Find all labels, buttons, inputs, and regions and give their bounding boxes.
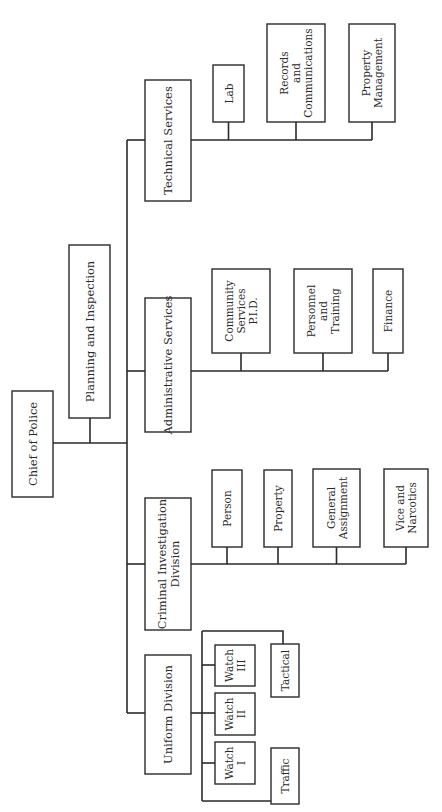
criminal-unit-box-label-line: Person	[221, 490, 233, 527]
uniform-unit-box: WatchII	[215, 693, 255, 735]
uniform-unit-box: WatchIII	[215, 645, 255, 686]
chief-of-police-box-label-line: Chief of Police	[26, 402, 40, 486]
uniform-unit-box-label-line: Watch	[223, 649, 235, 682]
uniform-unit-box-label-line: III	[235, 659, 247, 671]
uniform-division-box: Uniform Division	[145, 655, 191, 774]
technical-division-box-label-line: Technical Services	[161, 86, 175, 195]
administrative-unit-box-label-line: and	[317, 301, 329, 321]
administrative-unit-box-label-line: Training	[329, 288, 341, 334]
uniform-unit-box-label-line: Watch	[223, 746, 235, 779]
criminal-unit-box: Property	[264, 470, 292, 547]
planning-inspection-box: Planning and Inspection	[69, 245, 110, 418]
technical-unit-box-label-line: Property	[360, 50, 372, 97]
uniform-unit-box-label: Tactical	[279, 649, 291, 691]
criminal-unit-box-label-line: General	[325, 486, 337, 529]
uniform-unit-box: Tactical	[271, 644, 299, 697]
administrative-unit-box: CommunityServicesP.I.D.	[212, 269, 270, 353]
criminal-unit-box-label: Vice andNarcotics	[394, 482, 418, 534]
tactical-connector-line	[202, 631, 283, 644]
technical-unit-box: Lab	[213, 65, 244, 122]
uniform-unit-box-label-line: Traffic	[279, 758, 291, 793]
uniform-unit-box: Traffic	[271, 748, 299, 804]
uniform-division-box-label: Uniform Division	[161, 664, 175, 764]
chief-of-police-box-label: Chief of Police	[26, 402, 40, 486]
technical-unit-box-label-line: Communications	[302, 28, 314, 117]
administrative-unit-box-label-line: Community	[223, 280, 235, 341]
uniform-unit-box-label: Traffic	[279, 758, 291, 793]
uniform-division-box-label-line: Uniform Division	[161, 664, 175, 764]
planning-inspection-box-label-line: Planning and Inspection	[83, 260, 97, 402]
criminal-unit-box-label: Person	[221, 490, 233, 527]
administrative-division-box-label-line: Administrative Services	[161, 295, 175, 435]
planning-inspection-box-label: Planning and Inspection	[83, 260, 97, 402]
uniform-unit-box-label-line: Tactical	[279, 649, 291, 691]
technical-unit-box-label-line: Records	[278, 51, 290, 94]
uniform-unit-box-label-line: Watch	[223, 697, 235, 730]
criminal-unit-box: Vice andNarcotics	[384, 469, 428, 547]
criminal-unit-box: Person	[212, 470, 242, 547]
technical-unit-box-label-line: Management	[372, 37, 384, 108]
criminal-division-box-label-line: Division	[168, 540, 182, 588]
technical-unit-box-label: Lab	[223, 83, 235, 103]
chief-of-police-box: Chief of Police	[12, 391, 53, 497]
technical-unit-box: PropertyManagement	[349, 24, 395, 122]
technical-unit-box-label-line: and	[290, 63, 302, 83]
criminal-division-box: Criminal InvestigationDivision	[145, 498, 191, 630]
uniform-unit-box-label-line: II	[235, 710, 247, 718]
criminal-unit-box-label-line: Property	[272, 485, 284, 532]
uniform-unit-box-label-line: I	[235, 761, 247, 765]
administrative-unit-box-label: Finance	[382, 290, 394, 333]
technical-unit-box-label-line: Lab	[223, 83, 235, 103]
criminal-unit-box-label: Property	[272, 485, 284, 532]
administrative-unit-box-label-line: Personnel	[305, 284, 317, 337]
criminal-division-box-label-line: Criminal Investigation	[155, 498, 169, 629]
org-boxes: Chief of PolicePlanning and InspectionTe…	[12, 24, 428, 804]
administrative-unit-box: PersonnelandTraining	[294, 269, 352, 353]
criminal-unit-box: GeneralAssignment	[313, 469, 360, 547]
administrative-unit-box: Finance	[373, 269, 403, 353]
technical-unit-box: RecordsandCommunications	[267, 24, 325, 122]
administrative-division-box: Administrative Services	[145, 295, 191, 435]
administrative-unit-box-label-line: Services	[235, 288, 247, 333]
administrative-unit-box-label-line: P.I.D.	[247, 297, 259, 324]
org-chart: Chief of PolicePlanning and InspectionTe…	[0, 0, 442, 812]
administrative-unit-box-label-line: Finance	[382, 290, 394, 333]
administrative-division-box-label: Administrative Services	[161, 295, 175, 435]
technical-division-box: Technical Services	[145, 80, 191, 201]
criminal-unit-box-label-line: Vice and	[394, 485, 406, 532]
criminal-unit-box-label-line: Assignment	[337, 476, 349, 540]
uniform-unit-box: WatchI	[215, 742, 255, 784]
criminal-unit-box-label-line: Narcotics	[406, 482, 418, 534]
technical-division-box-label: Technical Services	[161, 86, 175, 195]
